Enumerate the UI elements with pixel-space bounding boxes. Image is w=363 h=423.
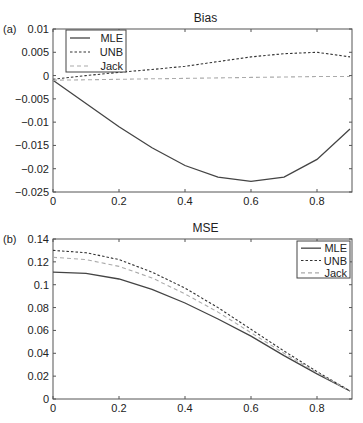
x-tick-label: 0.4	[177, 195, 192, 207]
x-tick-label: 0.2	[111, 402, 126, 414]
legend-label-jack: Jack	[324, 267, 347, 279]
y-tick-label: 0	[43, 70, 49, 82]
x-tick-label: 0.8	[309, 195, 324, 207]
x-tick-label: 0.2	[111, 195, 126, 207]
y-tick-label: 0.02	[28, 370, 49, 382]
series-line-jack	[53, 77, 350, 81]
x-tick-label: 0.6	[243, 402, 258, 414]
series-line-mle	[53, 80, 350, 181]
legend: MLEUNBJack	[297, 241, 350, 279]
y-tick-label: 0.1	[34, 279, 49, 291]
chart-title: MSE	[192, 221, 218, 235]
x-tick-label: 0.4	[177, 402, 192, 414]
chart-title: Bias	[194, 11, 217, 25]
y-tick-label: −0.02	[21, 163, 49, 175]
chart-panel-mse: MSE(b)0.140.120.10.080.060.040.02000.20.…	[3, 221, 352, 414]
x-tick-label: 0	[50, 402, 56, 414]
panel-label: (b)	[3, 233, 16, 245]
legend-label-unb: UNB	[324, 255, 347, 267]
x-tick-label: 0.6	[243, 195, 258, 207]
chart-panel-bias: Bias(a)0.010.0050−0.005−0.01−0.015−0.02−…	[3, 11, 352, 207]
legend: MLEUNBJack	[66, 30, 126, 72]
y-tick-label: 0.14	[28, 233, 49, 245]
x-tick-label: 0.8	[309, 402, 324, 414]
series-line-mle	[53, 272, 350, 391]
y-tick-label: −0.01	[21, 116, 49, 128]
y-tick-label: 0.06	[28, 324, 49, 336]
y-tick-label: 0.08	[28, 302, 49, 314]
figure: Bias(a)0.010.0050−0.005−0.01−0.015−0.02−…	[0, 0, 363, 423]
y-tick-label: −0.015	[15, 139, 49, 151]
legend-label-mle: MLE	[324, 242, 347, 254]
y-tick-label: 0.12	[28, 256, 49, 268]
legend-label-unb: UNB	[100, 46, 123, 58]
y-tick-label: 0.04	[28, 347, 49, 359]
y-tick-label: 0	[43, 393, 49, 405]
legend-label-mle: MLE	[100, 32, 123, 44]
y-tick-label: 0.01	[28, 23, 49, 35]
panel-label: (a)	[3, 23, 16, 35]
y-tick-label: 0.005	[21, 46, 49, 58]
x-tick-label: 0	[50, 195, 56, 207]
y-tick-label: −0.025	[15, 186, 49, 198]
y-tick-label: −0.005	[15, 93, 49, 105]
legend-label-jack: Jack	[100, 60, 123, 72]
